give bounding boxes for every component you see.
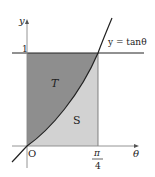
region-s-label: S: [73, 114, 81, 127]
x-axis-label: θ: [133, 148, 139, 159]
y-tick-one: 1: [22, 44, 28, 54]
curve-label: y = tanθ: [107, 37, 147, 47]
pi-denominator: 4: [95, 161, 101, 171]
pi-numerator: π: [93, 148, 101, 158]
tan-area-diagram: y 1 y = tanθ T S O π 4 θ: [0, 0, 155, 177]
y-axis-label: y: [18, 15, 25, 26]
origin-label: O: [28, 148, 36, 159]
y-axis-arrow-icon: [25, 19, 29, 24]
